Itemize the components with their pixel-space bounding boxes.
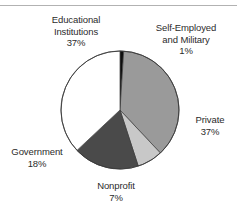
pie-label-private: Private 37% xyxy=(186,114,234,137)
pie-label-self-employed-and-military-value: 1% xyxy=(140,45,232,57)
pie-label-government-line1: Government xyxy=(2,146,72,158)
pie-label-nonprofit-value: 7% xyxy=(82,192,150,204)
pie-label-government-value: 18% xyxy=(2,158,72,170)
pie-label-educational-institutions-value: 37% xyxy=(33,37,119,49)
pie-chart-figure: Educational Institutions 37% Self-Employ… xyxy=(0,0,237,218)
pie-label-self-employed-and-military: Self-Employed and Military 1% xyxy=(140,22,232,57)
pie-slices xyxy=(61,51,179,169)
pie-label-educational-institutions-line1: Educational xyxy=(33,14,119,26)
pie-label-self-employed-and-military-line1: Self-Employed xyxy=(140,22,232,34)
pie-label-self-employed-and-military-line2: and Military xyxy=(140,34,232,46)
pie-label-private-value: 37% xyxy=(186,126,234,138)
pie-label-private-line1: Private xyxy=(186,114,234,126)
pie-label-educational-institutions-line2: Institutions xyxy=(33,26,119,38)
pie-label-government: Government 18% xyxy=(2,146,72,169)
pie-label-educational-institutions: Educational Institutions 37% xyxy=(33,14,119,49)
pie-label-nonprofit: Nonprofit 7% xyxy=(82,180,150,203)
pie-label-nonprofit-line1: Nonprofit xyxy=(82,180,150,192)
